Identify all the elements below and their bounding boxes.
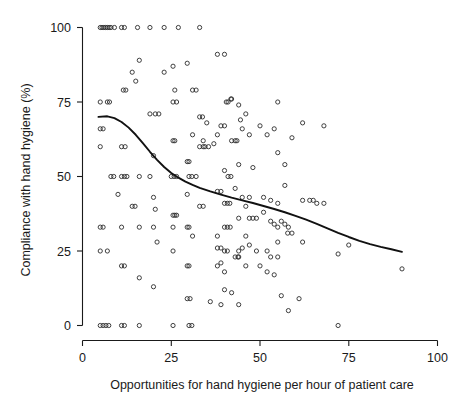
plot-canvas: 100 75 50 25 0 0 25 50 75 100 Opportunit… — [0, 0, 463, 403]
data-point — [194, 174, 198, 178]
data-point — [219, 303, 223, 307]
data-point — [171, 249, 175, 253]
data-point — [229, 174, 233, 178]
data-point — [279, 219, 283, 223]
data-point — [155, 240, 159, 244]
data-point — [148, 112, 152, 116]
y-tick-label-0: 0 — [64, 319, 71, 333]
data-point — [133, 204, 137, 208]
data-point — [251, 165, 255, 169]
data-point — [215, 133, 219, 137]
data-point — [176, 25, 180, 29]
data-point — [230, 291, 234, 295]
data-point — [286, 309, 290, 313]
data-point — [238, 118, 242, 122]
data-point — [247, 133, 251, 137]
data-point — [301, 121, 305, 125]
data-point — [215, 234, 219, 238]
data-point — [269, 255, 273, 259]
data-point — [153, 207, 157, 211]
data-point — [228, 225, 232, 229]
data-point — [122, 323, 126, 327]
data-point — [208, 300, 212, 304]
data-point — [222, 288, 226, 292]
data-point — [290, 231, 294, 235]
data-point — [272, 222, 276, 226]
data-point — [276, 240, 280, 244]
data-point — [198, 25, 202, 29]
data-point — [137, 58, 141, 62]
data-point — [112, 174, 116, 178]
data-point — [116, 192, 120, 196]
data-point — [151, 195, 155, 199]
data-point — [190, 174, 194, 178]
data-point — [107, 323, 111, 327]
data-point — [190, 323, 194, 327]
data-point — [286, 231, 290, 235]
x-tick-label-50: 50 — [253, 351, 267, 365]
data-point — [222, 270, 226, 274]
data-point — [269, 219, 273, 223]
x-tick-label-75: 75 — [342, 351, 356, 365]
data-point — [400, 267, 404, 271]
data-point — [222, 168, 226, 172]
data-point — [98, 100, 102, 104]
data-point — [173, 88, 177, 92]
data-point — [237, 249, 241, 253]
data-point — [297, 297, 301, 301]
data-point — [222, 52, 226, 56]
data-point — [276, 225, 280, 229]
data-point — [265, 133, 269, 137]
data-point — [269, 198, 273, 202]
data-point — [201, 139, 205, 143]
data-point — [276, 100, 280, 104]
data-point — [171, 225, 175, 229]
data-point — [336, 252, 340, 256]
data-point — [122, 264, 126, 268]
y-tick-label-100: 100 — [50, 21, 71, 35]
data-point — [98, 145, 102, 149]
data-point — [233, 186, 237, 190]
data-point — [237, 303, 241, 307]
data-point — [272, 273, 276, 277]
data-point — [286, 225, 290, 229]
data-point — [190, 133, 194, 137]
data-point — [148, 174, 152, 178]
data-point — [135, 25, 139, 29]
x-tick-label-25: 25 — [164, 351, 178, 365]
data-point — [219, 261, 223, 265]
data-point — [290, 136, 294, 140]
data-point — [315, 201, 319, 205]
data-point — [265, 270, 269, 274]
data-point — [101, 127, 105, 131]
y-axis-title: Compliance with hand hygiene (%) — [19, 83, 33, 276]
data-point — [258, 124, 262, 128]
data-point — [283, 162, 287, 166]
x-axis-title: Opportunities for hand hygiene per hour … — [110, 378, 414, 392]
data-point — [212, 142, 216, 146]
x-tick-label-100: 100 — [427, 351, 448, 365]
y-tick-label-50: 50 — [57, 170, 71, 184]
data-point — [301, 240, 305, 244]
data-point — [244, 264, 248, 268]
data-point — [301, 198, 305, 202]
data-point — [244, 234, 248, 238]
y-tick-label-75: 75 — [57, 96, 71, 110]
data-point — [101, 225, 105, 229]
data-point — [205, 121, 209, 125]
data-point — [162, 70, 166, 74]
data-point — [279, 294, 283, 298]
data-point — [336, 323, 340, 327]
data-point — [137, 276, 141, 280]
data-point — [283, 183, 287, 187]
data-point — [276, 255, 280, 259]
data-point — [185, 61, 189, 65]
data-point — [190, 234, 194, 238]
data-point — [322, 201, 326, 205]
data-point — [119, 225, 123, 229]
data-point — [215, 264, 219, 268]
data-point — [151, 285, 155, 289]
data-point — [283, 222, 287, 226]
data-point — [188, 297, 192, 301]
data-point — [240, 127, 244, 131]
